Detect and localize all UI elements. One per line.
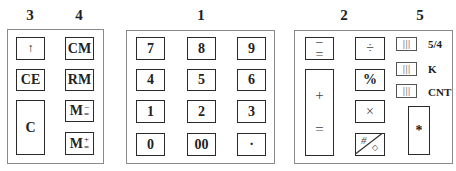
switch-5-4-label: 5/4 [428,38,442,50]
equals-icon: = [84,144,89,151]
multiply-key[interactable]: × [355,100,385,123]
percent-key[interactable]: % [355,69,385,91]
clear-entry-key[interactable]: CE [16,69,45,91]
up-arrow-icon: ↑ [28,41,34,56]
key-3-label: 3 [248,104,255,120]
switch-icon: ||| [402,40,410,49]
switch-k[interactable]: ||| [396,62,417,76]
decimal-point-label: · [249,137,254,153]
memory-plus-key[interactable]: M + = [65,132,94,155]
key-5-label: 5 [198,72,205,88]
plus-equals-key[interactable]: + = [305,69,334,156]
key-9[interactable]: 9 [237,37,266,60]
key-6[interactable]: 6 [237,69,266,91]
key-7[interactable]: 7 [136,37,165,60]
multiply-icon: × [366,104,374,120]
key-8[interactable]: 8 [187,37,216,60]
equals-icon: = [84,111,89,118]
divide-icon: ÷ [366,41,374,57]
clear-memory-label: CM [68,41,91,57]
recall-memory-label: RM [68,72,91,88]
key-4[interactable]: 4 [136,69,165,91]
key-2-label: 2 [198,104,205,120]
switch-cnt[interactable]: ||| [396,84,417,98]
equals-icon: = [315,121,323,138]
key-4-label: 4 [147,72,154,88]
key-7-label: 7 [147,41,154,57]
group-label-1: 1 [197,7,205,24]
recall-memory-key[interactable]: RM [65,69,94,91]
key-00-label: 00 [195,137,209,153]
switch-k-label: K [428,63,437,75]
percent-icon: % [363,72,377,88]
switch-icon: ||| [402,87,410,96]
group-label-4: 4 [75,7,83,24]
clear-entry-label: CE [21,72,40,88]
key-6-label: 6 [248,72,255,88]
switch-5-4[interactable]: ||| [396,37,417,51]
key-1-label: 1 [147,104,154,120]
star-icon: * [416,123,423,139]
memory-plus-m: M [70,136,83,152]
switch-icon: ||| [402,65,410,74]
group-label-3: 3 [26,7,34,24]
key-1[interactable]: 1 [136,100,165,123]
equals-icon: = [316,49,324,61]
key-00[interactable]: 00 [187,133,216,156]
clear-memory-key[interactable]: CM [65,37,94,60]
up-arrow-key[interactable]: ↑ [16,37,45,60]
memory-minus-m: M [70,103,83,119]
decimal-point-key[interactable]: · [237,133,266,156]
minus-equals-key[interactable]: − = [305,37,334,60]
group-label-5: 5 [416,7,424,24]
clear-label: C [25,120,35,136]
key-9-label: 9 [248,41,255,57]
key-5[interactable]: 5 [187,69,216,91]
diagonal-divider-icon [355,133,384,155]
hash-diamond-key[interactable]: # ◇ [355,133,385,156]
diamond-icon: ◇ [372,143,378,152]
plus-icon: + [315,87,323,104]
key-0[interactable]: 0 [136,133,165,156]
group-label-2: 2 [340,7,348,24]
switch-cnt-label: CNT [428,86,451,98]
key-8-label: 8 [198,41,205,57]
clear-key[interactable]: C [16,100,45,155]
memory-minus-key[interactable]: M − = [65,100,94,122]
key-2[interactable]: 2 [187,100,216,123]
divide-key[interactable]: ÷ [355,37,385,60]
key-0-label: 0 [147,137,154,153]
hash-icon: # [361,134,367,146]
star-key[interactable]: * [408,106,430,155]
key-3[interactable]: 3 [237,100,266,123]
